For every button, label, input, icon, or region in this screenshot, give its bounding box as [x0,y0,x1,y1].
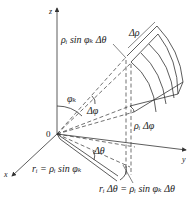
r-delta-theta-equation-label: rᵢ Δθ = ρᵢ sin φₖ Δθ [99,183,175,194]
z-axis-label: z [48,7,53,16]
r-i-equation-label: rᵢ = ρᵢ sin φₖ [32,163,82,174]
origin-label: 0 [46,129,51,139]
delta-phi-label: Δφ [86,105,99,116]
radial-dashed-lines [57,57,135,175]
x-axis-label: x [3,170,8,179]
delta-rho-label: Δρ [128,27,140,38]
delta-theta-label: Δθ [93,145,105,156]
y-axis-label: y [181,155,186,164]
leader-lines [113,22,155,183]
arc-theta-top-label: ρᵢ sin φₖ Δθ [60,34,107,45]
spherical-element-diagram: z y x 0 ρᵢ sin φₖ Δθ Δρ φₖ Δφ ρᵢ Δφ rᵢ =… [0,0,193,199]
rho-delta-phi-label: ρᵢ Δφ [133,120,155,131]
phi-k-label: φₖ [67,93,77,104]
